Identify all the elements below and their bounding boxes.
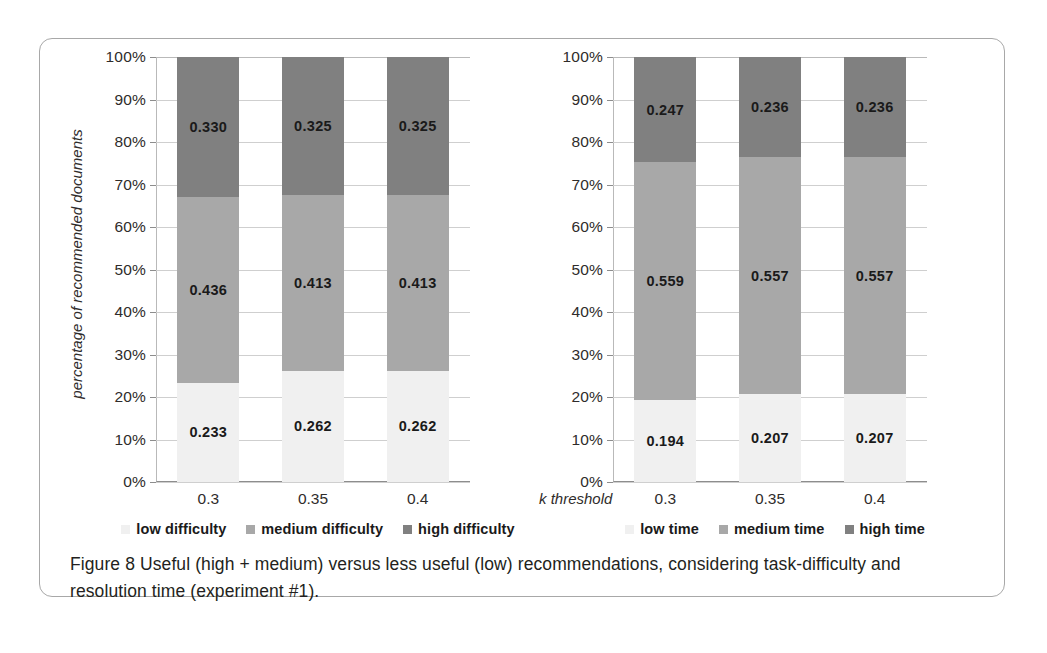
bar-segment[interactable]: 0.207: [844, 394, 906, 482]
chart-resolution-time: k threshold 0%10%20%30%40%50%60%70%80%90…: [545, 39, 995, 539]
bar-segment[interactable]: 0.233: [177, 383, 239, 482]
y-tickmark: [150, 482, 156, 483]
legend-item[interactable]: low difficulty: [121, 521, 226, 537]
bar-segment[interactable]: 0.413: [282, 195, 344, 371]
y-tick-label: 50%: [571, 261, 603, 279]
x-tick-label: 0.35: [755, 490, 785, 508]
legend-swatch-icon: [403, 525, 412, 534]
bar-segment[interactable]: 0.330: [177, 57, 239, 197]
bar-value-label: 0.207: [856, 430, 894, 446]
y-tick-label: 80%: [571, 133, 603, 151]
bar-segment[interactable]: 0.207: [739, 394, 801, 482]
bar-value-label: 0.247: [646, 102, 684, 118]
y-tick-label: 30%: [571, 346, 603, 364]
bar-group[interactable]: 0.2070.5570.236: [739, 57, 801, 482]
x-axis-title: k threshold: [539, 490, 612, 507]
bar-segment[interactable]: 0.236: [739, 57, 801, 157]
bar-group[interactable]: 0.1940.5590.247: [634, 57, 696, 482]
gridline: [156, 482, 470, 483]
bar-segment[interactable]: 0.413: [387, 195, 449, 371]
y-tickmark: [607, 312, 613, 313]
bar-value-label: 0.557: [751, 268, 789, 284]
bar-segment[interactable]: 0.236: [844, 57, 906, 157]
x-tick-label: 0.35: [298, 490, 328, 508]
y-tickmark: [607, 57, 613, 58]
y-tick-label: 10%: [571, 431, 603, 449]
y-tick-label: 40%: [114, 303, 146, 321]
bar-segment[interactable]: 0.436: [177, 197, 239, 382]
bar-group[interactable]: 0.2620.4130.325: [387, 57, 449, 482]
legend-swatch-icon: [625, 525, 634, 534]
plot-area-difficulty: 0.2330.4360.3300.2620.4130.3250.2620.413…: [156, 57, 470, 482]
bar-segment[interactable]: 0.247: [634, 57, 696, 162]
bar-segment[interactable]: 0.325: [282, 57, 344, 195]
legend-item[interactable]: high difficulty: [403, 521, 515, 537]
bar-value-label: 0.436: [189, 282, 227, 298]
legend-difficulty: low difficultymedium difficultyhigh diff…: [118, 521, 518, 537]
y-tickmark: [607, 397, 613, 398]
bar-segment[interactable]: 0.557: [739, 157, 801, 394]
x-ticks-difficulty: 0.30.350.4: [156, 490, 470, 514]
y-tickmark: [607, 355, 613, 356]
bar-segment[interactable]: 0.262: [282, 371, 344, 482]
x-ticks-time: 0.30.350.4: [613, 490, 927, 514]
y-tick-label: 20%: [571, 388, 603, 406]
legend-item[interactable]: high time: [845, 521, 925, 537]
legend-swatch-icon: [246, 525, 255, 534]
bar-value-label: 0.194: [646, 433, 684, 449]
legend-label: medium difficulty: [261, 521, 383, 537]
bar-segment[interactable]: 0.262: [387, 371, 449, 482]
y-tickmark: [607, 482, 613, 483]
y-tick-label: 40%: [571, 303, 603, 321]
legend-item[interactable]: medium difficulty: [246, 521, 383, 537]
figure-caption: Figure 8 Useful (high + medium) versus l…: [70, 551, 970, 605]
y-axis-difficulty: 0%10%20%30%40%50%60%70%80%90%100%: [88, 57, 150, 482]
x-tick-label: 0.4: [864, 490, 886, 508]
y-axis-title: percentage of recommended documents: [68, 129, 85, 398]
y-tickmark: [150, 312, 156, 313]
bar-value-label: 0.207: [751, 430, 789, 446]
y-tickmark: [150, 185, 156, 186]
y-tick-label: 30%: [114, 346, 146, 364]
bar-value-label: 0.262: [399, 418, 437, 434]
legend-label: low difficulty: [136, 521, 226, 537]
bar-value-label: 0.413: [399, 275, 437, 291]
bar-value-label: 0.325: [399, 118, 437, 134]
legend-time: low timemedium timehigh time: [575, 521, 975, 537]
y-tickmark: [150, 100, 156, 101]
y-tickmark: [607, 100, 613, 101]
y-tick-label: 70%: [571, 176, 603, 194]
y-tickmark: [150, 397, 156, 398]
x-tick-label: 0.3: [198, 490, 220, 508]
bar-group[interactable]: 0.2070.5570.236: [844, 57, 906, 482]
chart-task-difficulty: percentage of recommended documents 0%10…: [88, 39, 538, 539]
y-tickmark: [150, 355, 156, 356]
y-tick-label: 10%: [114, 431, 146, 449]
x-tick-label: 0.3: [655, 490, 677, 508]
y-axis-time: 0%10%20%30%40%50%60%70%80%90%100%: [545, 57, 607, 482]
legend-item[interactable]: low time: [625, 521, 699, 537]
bar-value-label: 0.262: [294, 418, 332, 434]
legend-item[interactable]: medium time: [719, 521, 825, 537]
y-tickmark: [150, 270, 156, 271]
bar-segment[interactable]: 0.194: [634, 400, 696, 482]
legend-label: high time: [860, 521, 925, 537]
bar-segment[interactable]: 0.325: [387, 57, 449, 195]
bar-segment[interactable]: 0.559: [634, 162, 696, 400]
bar-group[interactable]: 0.2620.4130.325: [282, 57, 344, 482]
y-tick-label: 60%: [571, 218, 603, 236]
bar-segment[interactable]: 0.557: [844, 157, 906, 394]
figure-frame: percentage of recommended documents 0%10…: [39, 38, 1005, 597]
legend-swatch-icon: [121, 525, 130, 534]
legend-swatch-icon: [845, 525, 854, 534]
y-tickmark: [150, 227, 156, 228]
y-tick-label: 70%: [114, 176, 146, 194]
bar-group[interactable]: 0.2330.4360.330: [177, 57, 239, 482]
y-tick-label: 80%: [114, 133, 146, 151]
y-tickmark: [150, 142, 156, 143]
y-tick-label: 20%: [114, 388, 146, 406]
y-tickmark: [150, 57, 156, 58]
bar-value-label: 0.233: [189, 424, 227, 440]
bar-value-label: 0.236: [856, 99, 894, 115]
legend-label: low time: [640, 521, 699, 537]
